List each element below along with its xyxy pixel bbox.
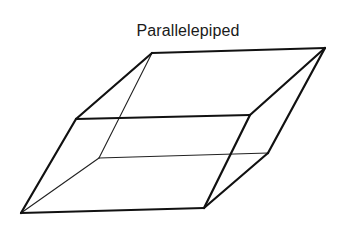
edge-top-front-left-to-top-front-right bbox=[76, 115, 250, 119]
hidden-edge-bottom-back-left-to-bottom-front-left bbox=[21, 158, 99, 213]
visible-edges bbox=[21, 48, 325, 213]
edge-top-back-left-to-top-back-right bbox=[152, 48, 325, 53]
edge-bottom-front-right-to-bottom-back-right bbox=[204, 153, 268, 208]
hidden-edge-top-back-left-to-bottom-back-left bbox=[99, 53, 152, 158]
hidden-edge-bottom-back-left-to-bottom-back-right bbox=[99, 153, 268, 158]
diagram-canvas: Parallelepiped bbox=[0, 0, 354, 233]
edge-bottom-front-left-to-bottom-front-right bbox=[21, 208, 204, 213]
edge-top-front-right-to-top-back-right bbox=[250, 48, 325, 115]
edge-top-front-right-to-bottom-front-right bbox=[204, 115, 250, 208]
edge-top-front-left-to-bottom-front-left bbox=[21, 119, 76, 213]
edge-top-back-left-to-top-front-left bbox=[76, 53, 152, 119]
hidden-edges bbox=[21, 53, 268, 213]
parallelepiped-figure bbox=[0, 0, 354, 233]
edge-top-back-right-to-bottom-back-right bbox=[268, 48, 325, 153]
